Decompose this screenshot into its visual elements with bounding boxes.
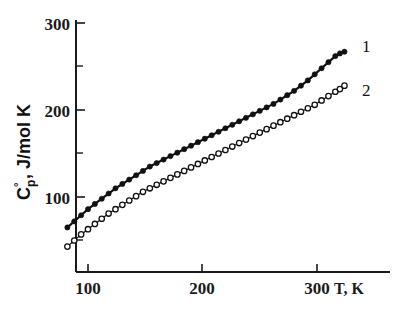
data-point bbox=[271, 123, 276, 128]
data-point bbox=[230, 144, 235, 149]
data-point bbox=[195, 161, 200, 166]
data-point bbox=[175, 150, 180, 155]
data-point bbox=[133, 193, 138, 198]
data-point bbox=[278, 97, 283, 102]
data-point bbox=[133, 173, 138, 178]
data-point bbox=[85, 226, 90, 231]
data-point bbox=[298, 109, 303, 114]
data-point bbox=[127, 177, 132, 182]
data-point bbox=[312, 102, 317, 107]
data-point bbox=[319, 66, 324, 71]
y-axis-title-units: , J/mol K bbox=[14, 104, 34, 179]
data-point bbox=[65, 225, 70, 230]
y-tick-label-200: 200 bbox=[45, 102, 71, 121]
data-point bbox=[140, 189, 145, 194]
data-point bbox=[264, 126, 269, 131]
data-series-layer bbox=[65, 49, 347, 249]
data-point bbox=[257, 108, 262, 113]
data-point bbox=[92, 201, 97, 206]
y-axis-title-degree: ° bbox=[12, 183, 24, 187]
data-point bbox=[147, 186, 152, 191]
y-axis-title: C ° p , J/mol K bbox=[12, 104, 38, 200]
data-point bbox=[223, 126, 228, 131]
data-point bbox=[271, 101, 276, 106]
data-point bbox=[127, 198, 132, 203]
data-point bbox=[182, 147, 187, 152]
data-point bbox=[106, 211, 111, 216]
y-tick-label-100: 100 bbox=[45, 189, 71, 208]
data-point bbox=[120, 181, 125, 186]
data-point bbox=[147, 164, 152, 169]
x-tick-label-300: 300 bbox=[304, 279, 330, 298]
data-point bbox=[202, 136, 207, 141]
data-point bbox=[298, 83, 303, 88]
data-point bbox=[175, 172, 180, 177]
data-point bbox=[216, 129, 221, 134]
data-point bbox=[342, 49, 347, 54]
y-tick-label-300: 300 bbox=[45, 15, 71, 34]
data-point bbox=[85, 207, 90, 212]
data-point bbox=[72, 219, 77, 224]
data-point bbox=[99, 196, 104, 201]
data-point bbox=[312, 72, 317, 77]
data-point bbox=[326, 60, 331, 65]
data-point bbox=[188, 143, 193, 148]
data-point bbox=[140, 168, 145, 173]
series-label-1: 1 bbox=[362, 37, 371, 56]
data-point bbox=[230, 122, 235, 127]
series-label-2: 2 bbox=[362, 81, 371, 100]
data-point bbox=[278, 119, 283, 124]
data-point bbox=[342, 83, 347, 88]
data-point bbox=[99, 216, 104, 221]
data-point bbox=[79, 213, 84, 218]
data-point bbox=[257, 130, 262, 135]
data-point bbox=[195, 140, 200, 145]
data-point bbox=[154, 182, 159, 187]
data-point bbox=[291, 113, 296, 118]
y-axis-title-base: C bbox=[14, 187, 34, 200]
chart-plot-area: 300 200 100 100 200 300 T, K C ° p , J/m… bbox=[0, 0, 395, 318]
data-point bbox=[250, 112, 255, 117]
data-point bbox=[168, 154, 173, 159]
data-point bbox=[250, 133, 255, 138]
data-point bbox=[264, 105, 269, 110]
data-point bbox=[181, 168, 186, 173]
y-axis-title-subscript: p bbox=[24, 180, 38, 187]
data-point bbox=[188, 165, 193, 170]
data-point bbox=[305, 78, 310, 83]
data-point bbox=[292, 88, 297, 93]
data-point bbox=[319, 98, 324, 103]
data-point bbox=[72, 238, 77, 243]
data-point bbox=[209, 133, 214, 138]
series-2 bbox=[65, 83, 347, 249]
data-point bbox=[113, 206, 118, 211]
data-point bbox=[113, 186, 118, 191]
data-point bbox=[237, 119, 242, 124]
data-point bbox=[78, 232, 83, 237]
data-point bbox=[326, 93, 331, 98]
heat-capacity-chart-figure: 300 200 100 100 200 300 T, K C ° p , J/m… bbox=[0, 0, 395, 318]
data-point bbox=[161, 157, 166, 162]
data-point bbox=[154, 160, 159, 165]
data-point bbox=[216, 151, 221, 156]
data-point bbox=[92, 221, 97, 226]
x-axis-title: T, K bbox=[334, 280, 364, 297]
x-tick-label-200: 200 bbox=[189, 279, 215, 298]
data-point bbox=[202, 158, 207, 163]
data-point bbox=[209, 154, 214, 159]
data-point bbox=[305, 106, 310, 111]
data-point bbox=[285, 116, 290, 121]
data-point bbox=[236, 140, 241, 145]
data-point bbox=[223, 147, 228, 152]
data-point bbox=[243, 115, 248, 120]
data-point bbox=[161, 179, 166, 184]
x-tick-label-100: 100 bbox=[75, 279, 101, 298]
data-point bbox=[106, 191, 111, 196]
data-point bbox=[168, 175, 173, 180]
series-1 bbox=[65, 49, 347, 230]
data-point bbox=[285, 93, 290, 98]
data-point bbox=[243, 137, 248, 142]
data-point bbox=[65, 244, 70, 249]
data-point bbox=[120, 202, 125, 207]
